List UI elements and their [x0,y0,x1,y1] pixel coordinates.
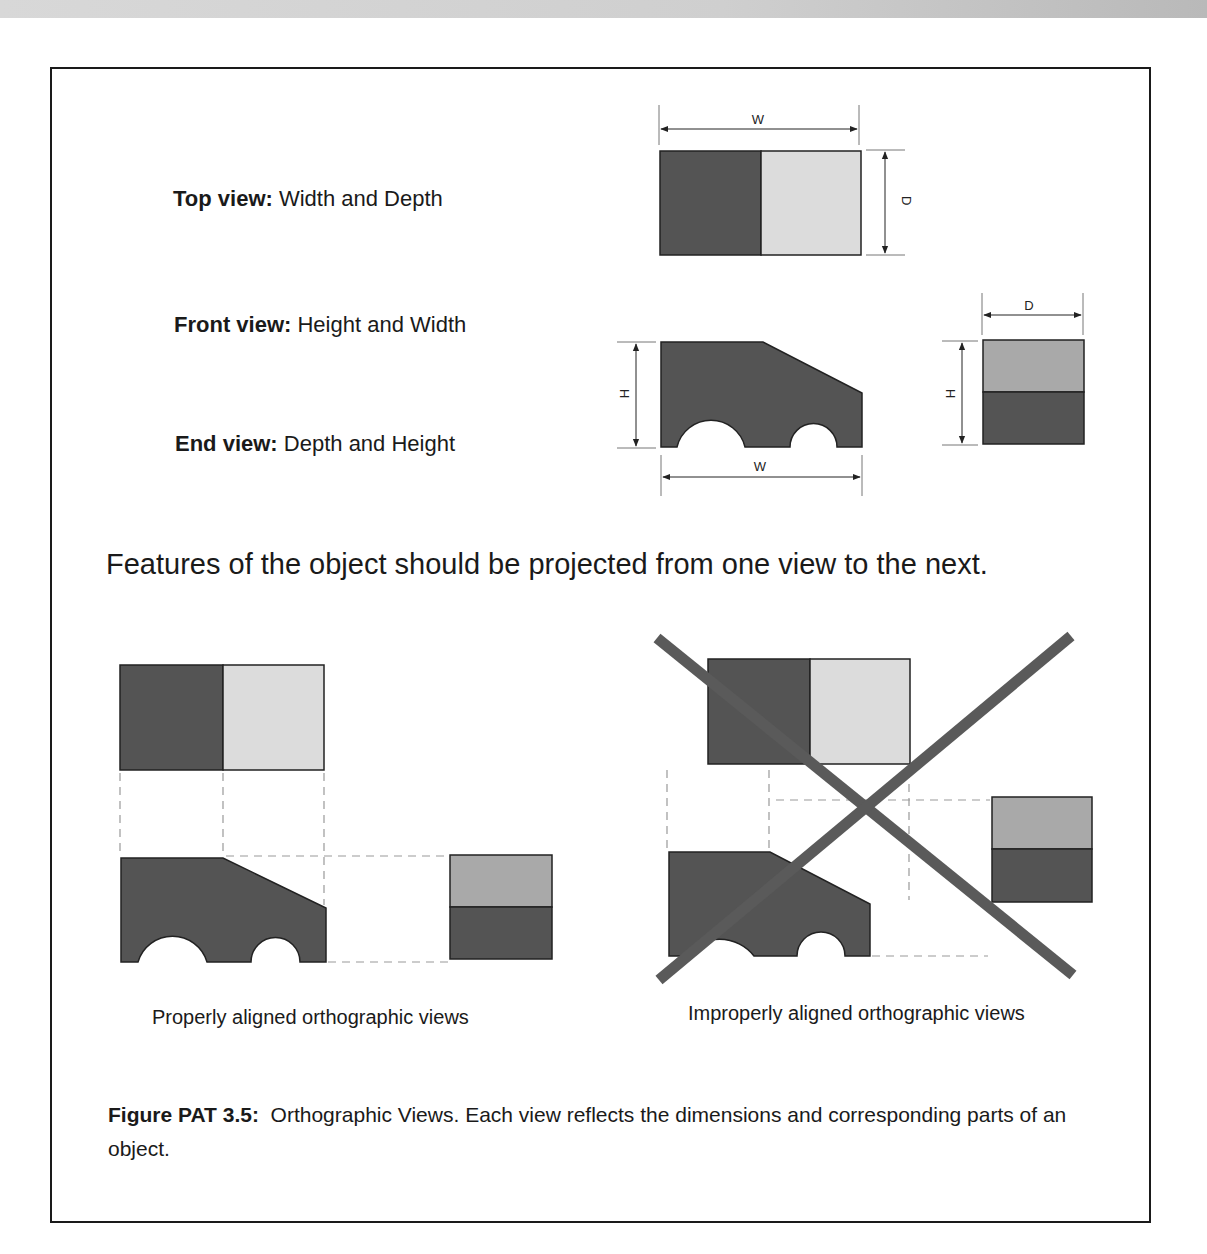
improper-alignment-label: Improperly aligned orthographic views [688,1002,1025,1025]
proper-alignment-label: Properly aligned orthographic views [152,1006,469,1029]
top-view-drawing: W D [659,105,914,255]
front-view-drawing: H W [617,342,862,496]
top-width-dim: W [752,112,765,127]
orthographic-diagram: W D H W D H [0,0,1207,1254]
end-height-dim: H [943,389,958,398]
top-depth-dim: D [899,196,914,205]
improper-alignment-example [657,636,1092,980]
figure-caption: Figure PAT 3.5: Orthographic Views. Each… [108,1098,1108,1166]
proper-alignment-example [120,665,552,962]
figure-number: Figure PAT 3.5: [108,1103,259,1126]
projection-headline: Features of the object should be project… [106,548,988,581]
front-height-dim: H [617,389,632,398]
front-width-dim: W [754,459,767,474]
end-depth-dim: D [1024,298,1033,313]
end-view-drawing: D H [942,293,1084,445]
